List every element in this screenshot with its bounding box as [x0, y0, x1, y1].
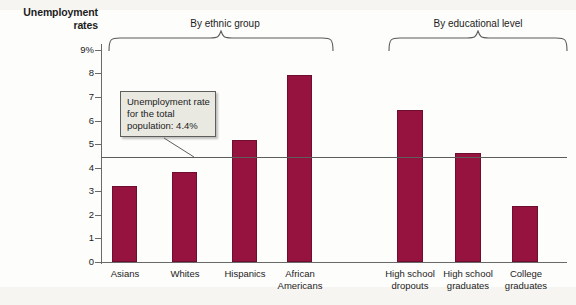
category-label-high-school-dropouts-line2: dropouts: [378, 280, 442, 292]
x-axis-line: [101, 262, 567, 263]
group-title-education: By educational level: [398, 18, 558, 29]
bar-high-school-graduates: [455, 153, 481, 262]
category-label-asians: Asians: [99, 268, 151, 280]
y-tick-label-2: 2: [62, 209, 94, 220]
bar-college-graduates: [512, 206, 538, 262]
y-tick-label-9: 9%: [62, 44, 94, 55]
y-tick-label-1: 1: [62, 232, 94, 243]
y-tick-label-6: 6: [62, 115, 94, 126]
y-tick-7: [95, 97, 102, 98]
y-tick-label-8: 8: [62, 67, 94, 78]
y-tick-label-3: 3: [62, 185, 94, 196]
y-axis-line: [101, 44, 102, 264]
y-tick-1: [95, 238, 102, 239]
category-label-high-school-dropouts: High school dropouts: [378, 268, 442, 291]
y-tick-6: [95, 121, 102, 122]
callout-leader-line: [150, 130, 210, 162]
y-tick-8: [95, 73, 102, 74]
y-tick-2: [95, 215, 102, 216]
bar-african-americans: [287, 75, 312, 262]
y-tick-label-5: 5: [62, 138, 94, 149]
brace-education: [388, 30, 568, 52]
category-label-high-school-dropouts-line1: High school: [378, 268, 442, 280]
category-label-high-school-graduates: High school graduates: [436, 268, 500, 291]
unemployment-rates-bar-chart: Unemployment rates 9% 8 7 6 5 4 3 2 1 0 …: [0, 0, 576, 305]
y-tick-label-7: 7: [62, 91, 94, 102]
bar-asians: [112, 186, 137, 262]
category-label-college-graduates: College graduates: [494, 268, 558, 291]
category-label-college-graduates-line1: College: [494, 268, 558, 280]
y-tick-5: [95, 144, 102, 145]
category-label-african-americans-line2: Americans: [269, 280, 331, 292]
category-label-high-school-graduates-line1: High school: [436, 268, 500, 280]
y-tick-label-4: 4: [62, 162, 94, 173]
category-label-hispanics: Hispanics: [216, 268, 274, 280]
brace-ethnic: [108, 30, 334, 52]
y-axis-title: Unemployment rates: [6, 6, 98, 31]
category-label-whites: Whites: [159, 268, 211, 280]
y-tick-0: [95, 262, 102, 263]
category-label-african-americans-line1: African: [269, 268, 331, 280]
bar-high-school-dropouts: [397, 110, 423, 262]
y-axis-title-line2: rates: [6, 19, 98, 32]
y-tick-label-0: 0: [62, 256, 94, 267]
category-label-african-americans: African Americans: [269, 268, 331, 291]
y-tick-4: [95, 168, 102, 169]
y-tick-9: [95, 50, 102, 51]
bar-whites: [172, 172, 197, 262]
y-axis-title-line1: Unemployment: [6, 6, 98, 19]
bar-hispanics: [232, 140, 257, 262]
category-label-college-graduates-line2: graduates: [494, 280, 558, 292]
category-label-high-school-graduates-line2: graduates: [436, 280, 500, 292]
y-tick-3: [95, 191, 102, 192]
group-title-ethnic: By ethnic group: [130, 18, 320, 29]
